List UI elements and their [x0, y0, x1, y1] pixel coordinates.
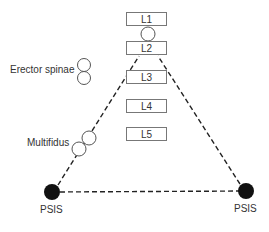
- diagram-lines: [0, 0, 269, 232]
- erector-spinae-label: Erector spinae: [10, 64, 74, 75]
- psis-left-label: PSIS: [40, 204, 63, 215]
- lumbar-triangle-diagram: L1 L2 L3 L4 L5 Erector spinae Multifidus…: [0, 0, 269, 232]
- multifidus-label: Multifidus: [27, 137, 69, 148]
- erector-spinae-lower-circle-icon: [78, 72, 91, 85]
- psis-left-dot-icon: [44, 184, 60, 200]
- vertebra-l2: L2: [126, 41, 167, 55]
- vertebra-l3: L3: [126, 70, 167, 84]
- interspinous-circle-icon: [141, 27, 155, 41]
- vertebra-l1: L1: [126, 12, 167, 26]
- multifidus-upper-circle-icon: [82, 131, 96, 145]
- erector-spinae-upper-circle-icon: [78, 59, 91, 72]
- vertebra-l5: L5: [126, 127, 167, 141]
- multifidus-lower-circle-icon: [72, 142, 86, 156]
- right-dashed-line: [158, 56, 240, 184]
- base-dashed-line: [52, 191, 246, 192]
- psis-right-label: PSIS: [234, 203, 257, 214]
- psis-right-dot-icon: [238, 183, 254, 199]
- vertebra-l4: L4: [126, 99, 167, 113]
